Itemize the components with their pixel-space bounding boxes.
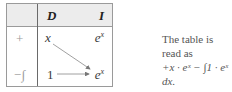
diagonal-arrow-icon: [53, 44, 90, 69]
explanation-text: The table is read as +x · eˣ − ∫1 · eˣ d…: [162, 32, 232, 88]
di-table: D I + x ex −∫ 1 ex: [6, 3, 113, 87]
arrows: [7, 4, 114, 88]
note-line-1: The table is read as: [162, 32, 232, 60]
note-line-2: +x · eˣ − ∫1 · eˣ dx.: [162, 60, 232, 88]
